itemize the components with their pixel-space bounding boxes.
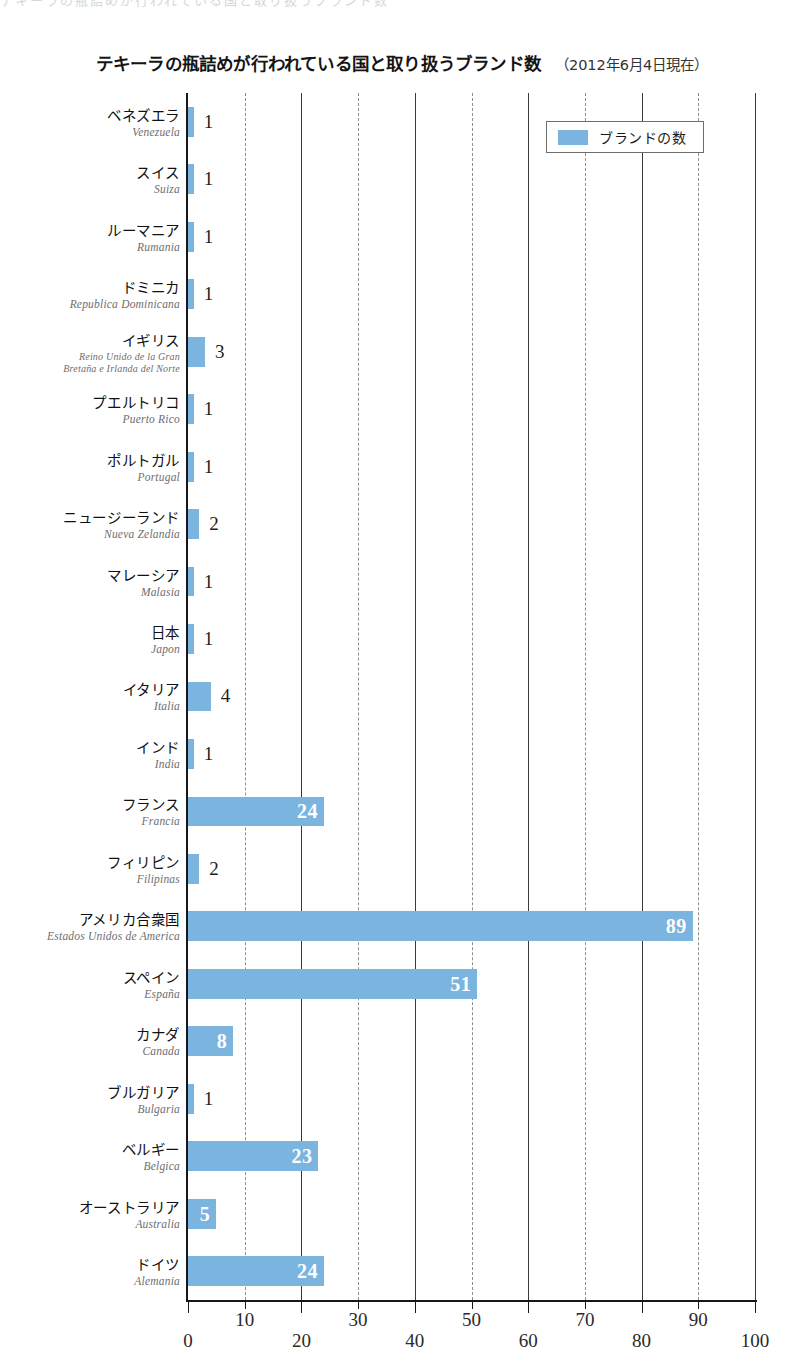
x-axis-label-0: 0 [183, 1330, 193, 1352]
bar-row[interactable]: 8カナダCanada [188, 1026, 755, 1056]
category-label-es: Rumania [10, 241, 180, 254]
bar[interactable]: 5 [188, 1199, 216, 1229]
bar-value-label: 23 [291, 1145, 312, 1168]
y-axis-category-label: ドミニカRepublica Dominicana [10, 277, 180, 312]
bar-value-label: 1 [204, 1088, 214, 1110]
bar-value-label: 1 [204, 283, 214, 305]
bar[interactable] [188, 222, 194, 252]
bar[interactable] [188, 567, 194, 597]
bar-value-label: 1 [204, 111, 214, 133]
category-label-es: Nueva Zelandia [10, 528, 180, 541]
bar[interactable] [188, 739, 194, 769]
tick-70 [585, 1300, 586, 1309]
bar[interactable] [188, 1084, 194, 1114]
y-axis-category-label: イタリアItalia [10, 679, 180, 714]
bar-row[interactable]: 1プエルトリコPuerto Rico [188, 394, 755, 424]
bar[interactable] [188, 452, 194, 482]
cropped-header-strip: テキーラの瓶詰めが行われている国と取り扱うブランド数 [0, 0, 804, 14]
bar-value-label: 1 [204, 571, 214, 593]
legend-swatch-brand-count [558, 130, 588, 145]
bar-row[interactable]: 1インドIndia [188, 739, 755, 769]
bar[interactable]: 24 [188, 1256, 324, 1286]
bar-row[interactable]: 1スイスSuiza [188, 164, 755, 194]
bar-value-label: 1 [204, 398, 214, 420]
bar[interactable] [188, 107, 194, 137]
y-axis-category-label: フランスFrancia [10, 794, 180, 829]
category-label-ja: アメリカ合衆国 [10, 909, 180, 930]
tick-60 [528, 1300, 529, 1313]
category-label-ja: ドイツ [10, 1254, 180, 1275]
bar-row[interactable]: 51スペインEspaña [188, 969, 755, 999]
x-axis-label-40: 40 [405, 1330, 424, 1352]
y-axis-category-label: ドイツAlemania [10, 1254, 180, 1289]
bar[interactable] [188, 394, 194, 424]
category-label-ja: ルーマニア [10, 219, 180, 240]
bar[interactable]: 8 [188, 1026, 233, 1056]
category-label-es: Bulgaria [10, 1103, 180, 1116]
bar[interactable] [188, 624, 194, 654]
category-label-es: Estados Unidos de America [10, 931, 180, 944]
tick-0 [188, 1300, 189, 1313]
y-axis-category-label: プエルトリコPuerto Rico [10, 392, 180, 427]
bar-row[interactable]: 24ドイツAlemania [188, 1256, 755, 1286]
bar-value-label: 24 [297, 1260, 318, 1283]
bar-value-label: 2 [209, 513, 219, 535]
bar-row[interactable]: 24フランスFrancia [188, 797, 755, 827]
bar-row[interactable]: 1ポルトガルPortugal [188, 452, 755, 482]
bar-value-label: 1 [204, 456, 214, 478]
category-label-ja: ベルギー [10, 1139, 180, 1160]
y-axis-category-label: マレーシアMalasia [10, 564, 180, 599]
bar[interactable] [188, 279, 194, 309]
bar-row[interactable]: 1日本Japon [188, 624, 755, 654]
bar-row[interactable]: 1マレーシアMalasia [188, 567, 755, 597]
bar-value-label: 5 [200, 1202, 211, 1225]
bar-row[interactable]: 1ドミニカRepublica Dominicana [188, 279, 755, 309]
tick-40 [415, 1300, 416, 1313]
x-axis-label-10: 10 [235, 1309, 254, 1331]
category-label-es: Japon [10, 643, 180, 656]
y-axis-category-label: スイスSuiza [10, 162, 180, 197]
x-axis-label-80: 80 [632, 1330, 651, 1352]
tick-20 [301, 1300, 302, 1313]
category-label-es-line2: Bretaña e Irlanda del Norte [10, 363, 180, 375]
bar-row[interactable]: 1ブルガリアBulgaria [188, 1084, 755, 1114]
bar[interactable] [188, 854, 199, 884]
bar-value-label: 24 [297, 800, 318, 823]
x-axis-label-70: 70 [575, 1309, 594, 1331]
bar[interactable] [188, 337, 205, 367]
category-label-es: Malasia [10, 586, 180, 599]
bar-row[interactable]: 2フィリピンFilipinas [188, 854, 755, 884]
y-axis-category-label: ポルトガルPortugal [10, 449, 180, 484]
y-axis-category-label: スペインEspaña [10, 966, 180, 1001]
category-label-es: India [10, 758, 180, 771]
bar-row[interactable]: 4イタリアItalia [188, 682, 755, 712]
bar[interactable]: 23 [188, 1141, 318, 1171]
category-label-ja: マレーシア [10, 564, 180, 585]
category-label-ja: イギリス [10, 329, 180, 350]
bar-row[interactable]: 89アメリカ合衆国Estados Unidos de America [188, 911, 755, 941]
bar[interactable]: 24 [188, 797, 324, 827]
category-label-es: Suiza [10, 184, 180, 197]
bar[interactable]: 51 [188, 969, 477, 999]
bar-row[interactable]: 2ニュージーランドNueva Zelandia [188, 509, 755, 539]
bar[interactable] [188, 682, 211, 712]
bar-row[interactable]: 1ルーマニアRumania [188, 222, 755, 252]
category-label-es: Belgica [10, 1161, 180, 1174]
bar-value-label: 2 [209, 858, 219, 880]
category-label-ja: 日本 [10, 621, 180, 642]
category-label-es: Filipinas [10, 873, 180, 886]
bar-row[interactable]: 5オーストラリアAustralia [188, 1199, 755, 1229]
category-label-ja: ドミニカ [10, 277, 180, 298]
category-label-es: Francia [10, 816, 180, 829]
y-axis-category-label: ベルギーBelgica [10, 1139, 180, 1174]
y-axis-category-label: インドIndia [10, 736, 180, 771]
bar-row[interactable]: 3イギリスReino Unido de la GranBretaña e Irl… [188, 337, 755, 367]
bar[interactable] [188, 509, 199, 539]
bar-value-label: 1 [204, 168, 214, 190]
category-label-ja: スペイン [10, 966, 180, 987]
bar[interactable]: 89 [188, 911, 693, 941]
y-axis-category-label: ルーマニアRumania [10, 219, 180, 254]
x-axis-label-90: 90 [689, 1309, 708, 1331]
bar[interactable] [188, 164, 194, 194]
bar-row[interactable]: 23ベルギーBelgica [188, 1141, 755, 1171]
